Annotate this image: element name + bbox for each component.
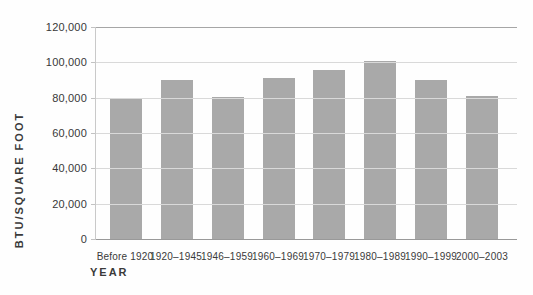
bar-1920–1945 — [161, 80, 193, 240]
gridline — [96, 133, 517, 134]
y-tick-label: 120,000 — [32, 21, 87, 33]
gridline — [96, 27, 517, 28]
y-tick-label: 100,000 — [32, 56, 87, 68]
y-tick-mark — [91, 168, 95, 169]
y-tick-label: 0 — [32, 233, 87, 245]
y-tick-mark — [91, 27, 95, 28]
y-tick-mark — [91, 133, 95, 134]
gridline — [96, 204, 517, 205]
bar-1970–1979 — [313, 70, 345, 240]
y-tick-mark — [91, 239, 95, 240]
bar-Before 1920 — [110, 98, 142, 240]
x-axis-title: YEAR — [90, 266, 129, 278]
bar-1990–1999 — [415, 80, 447, 240]
gridline — [96, 239, 517, 240]
y-tick-mark — [91, 62, 95, 63]
bar-chart: BTU/SQUARE FOOT 120,000100,00080,00060,0… — [0, 0, 533, 295]
y-axis-title: BTU/SQUARE FOOT — [13, 112, 25, 248]
x-tick-label: 2000–2003 — [445, 251, 519, 262]
bar-1960–1969 — [263, 78, 295, 240]
gridline — [96, 168, 517, 169]
y-tick-label: 20,000 — [32, 198, 87, 210]
gridline — [96, 98, 517, 99]
y-tick-label: 80,000 — [32, 92, 87, 104]
y-tick-mark — [91, 98, 95, 99]
bar-1980–1989 — [364, 61, 396, 240]
y-tick-label: 40,000 — [32, 162, 87, 174]
gridline — [96, 62, 517, 63]
y-tick-label: 60,000 — [32, 127, 87, 139]
plot-area — [95, 27, 517, 240]
y-tick-mark — [91, 204, 95, 205]
